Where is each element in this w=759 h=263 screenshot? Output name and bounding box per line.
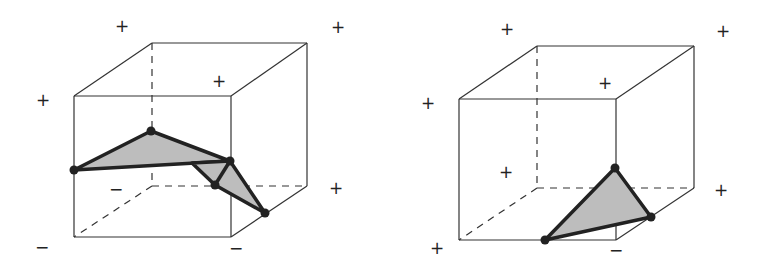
plus-sign-label: + [36, 90, 50, 110]
cube-edge [74, 43, 152, 96]
isosurface-triangle [192, 161, 265, 213]
plus-sign-label: + [329, 178, 343, 198]
plus-sign-label: + [212, 71, 226, 91]
intersection-point [211, 181, 220, 190]
cube-left: +++++−−− [35, 16, 345, 258]
hidden-edge [459, 188, 537, 240]
minus-sign-label: − [109, 179, 123, 199]
cube-edge [616, 46, 694, 99]
cube-right: +++++++− [421, 19, 730, 260]
plus-sign-label: + [598, 73, 612, 93]
minus-sign-label: − [35, 237, 49, 257]
cube-edge [231, 43, 307, 96]
intersection-point [611, 164, 620, 173]
intersection-point [226, 157, 235, 166]
marching-cubes-diagram: +++++−−− +++++++− [0, 0, 759, 263]
minus-sign-label: − [609, 240, 623, 260]
plus-sign-label: + [115, 16, 129, 36]
plus-sign-label: + [430, 238, 444, 258]
plus-sign-label: + [331, 17, 345, 37]
minus-sign-label: − [229, 238, 243, 258]
plus-sign-label: + [714, 180, 728, 200]
plus-sign-label: + [716, 21, 730, 41]
isosurface-triangle [545, 168, 651, 240]
plus-sign-label: + [421, 93, 435, 113]
intersection-point [541, 236, 550, 245]
cube-edge [459, 46, 537, 99]
intersection-point [261, 209, 270, 218]
intersection-point [647, 213, 656, 222]
plus-sign-label: + [500, 19, 514, 39]
intersection-point [147, 127, 156, 136]
intersection-point [70, 166, 79, 175]
plus-sign-label: + [499, 162, 513, 182]
